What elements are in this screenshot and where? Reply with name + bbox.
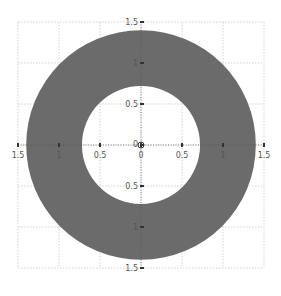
y-tick-label: 1 [133,223,138,232]
y-tick-mark [140,144,144,146]
y-tick-mark [140,103,144,105]
y-tick-label: 0 [133,140,138,149]
x-tick-label: 1.5 [258,151,271,160]
y-tick-mark [140,62,144,64]
y-tick-label: 1.5 [125,18,138,27]
x-tick-mark [222,143,224,147]
x-tick-mark [263,143,265,147]
x-tick-label: 0.5 [94,151,107,160]
y-tick-label: 1.5 [125,264,138,273]
y-tick-label: 1 [133,59,138,68]
x-tick-mark [99,143,101,147]
x-tick-label: 1.5 [12,151,25,160]
x-tick-mark [17,143,19,147]
y-tick-label: 0.5 [125,100,138,109]
y-tick-mark [140,226,144,228]
y-tick-mark [140,21,144,23]
y-tick-label: 0.5 [125,182,138,191]
x-tick-label: 1 [56,151,61,160]
y-tick-mark [140,267,144,269]
x-tick-label: 0.5 [176,151,189,160]
x-tick-label: 1 [220,151,225,160]
x-tick-label: 0 [138,151,143,160]
annulus-chart: 1.510.500.511.5 1.510.500.511.5 [0,0,281,296]
y-tick-mark [140,185,144,187]
x-tick-mark [58,143,60,147]
x-tick-mark [181,143,183,147]
